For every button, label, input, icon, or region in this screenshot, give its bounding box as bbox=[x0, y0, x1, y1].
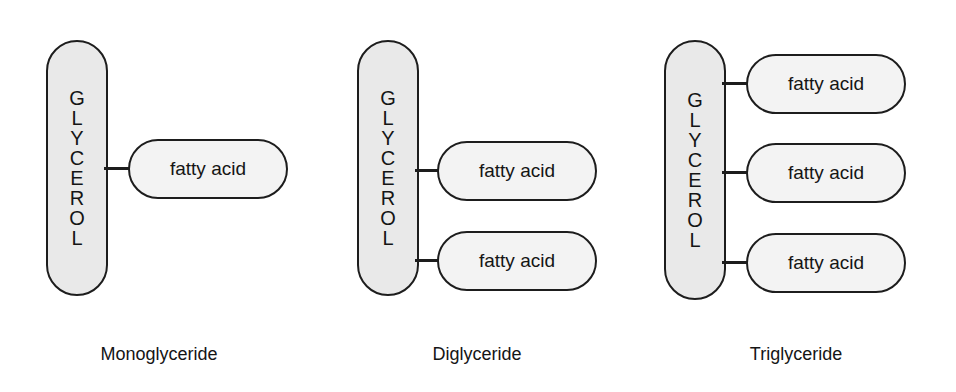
caption-text: Monoglyceride bbox=[100, 344, 217, 364]
glycerol-letter: G bbox=[69, 88, 85, 108]
glycerol-letter: L bbox=[382, 228, 393, 248]
fatty-acid-capsule: fatty acid bbox=[746, 54, 906, 114]
panel-diglyceride: G L Y C E R O L fatty acid fatty acid Di… bbox=[318, 0, 636, 392]
glycerol-letter: L bbox=[689, 230, 700, 250]
fatty-acid-label: fatty acid bbox=[788, 252, 864, 274]
caption-text: Triglyceride bbox=[750, 344, 842, 364]
glycerol-letter: O bbox=[687, 210, 703, 230]
fatty-acid-capsule: fatty acid bbox=[437, 231, 597, 291]
glycerol-letter: O bbox=[69, 208, 85, 228]
glycerol-letter: G bbox=[687, 90, 703, 110]
fatty-acid-capsule: fatty acid bbox=[746, 233, 906, 293]
fatty-acid-label: fatty acid bbox=[788, 73, 864, 95]
glycerol-letter: R bbox=[688, 190, 702, 210]
caption-text: Diglyceride bbox=[432, 344, 521, 364]
fatty-acid-label: fatty acid bbox=[170, 158, 246, 180]
glyceride-diagram: G L Y C E R O L fatty acid Monoglyceride… bbox=[0, 0, 956, 392]
glycerol-backbone: G L Y C E R O L bbox=[664, 40, 726, 300]
glycerol-backbone: G L Y C E R O L bbox=[357, 40, 419, 296]
glycerol-backbone: G L Y C E R O L bbox=[46, 40, 108, 296]
glycerol-label: G L Y C E R O L bbox=[69, 88, 85, 248]
panel-triglyceride: G L Y C E R O L fatty acid fatty acid fa… bbox=[636, 0, 956, 392]
fatty-acid-capsule: fatty acid bbox=[128, 139, 288, 199]
glycerol-letter: L bbox=[382, 108, 393, 128]
fatty-acid-capsule: fatty acid bbox=[746, 143, 906, 203]
glycerol-letter: Y bbox=[70, 128, 83, 148]
glycerol-letter: G bbox=[380, 88, 396, 108]
glycerol-label: G L Y C E R O L bbox=[687, 90, 703, 250]
glycerol-letter: L bbox=[689, 110, 700, 130]
glycerol-letter: C bbox=[381, 148, 395, 168]
panel-monoglyceride: G L Y C E R O L fatty acid Monoglyceride bbox=[0, 0, 318, 392]
glycerol-letter: R bbox=[70, 188, 84, 208]
fatty-acid-label: fatty acid bbox=[788, 162, 864, 184]
glycerol-letter: C bbox=[70, 148, 84, 168]
glycerol-letter: L bbox=[71, 228, 82, 248]
glycerol-letter: R bbox=[381, 188, 395, 208]
glycerol-label: G L Y C E R O L bbox=[380, 88, 396, 248]
glycerol-letter: E bbox=[70, 168, 83, 188]
panel-caption: Triglyceride bbox=[636, 344, 956, 365]
fatty-acid-label: fatty acid bbox=[479, 160, 555, 182]
glycerol-letter: Y bbox=[688, 130, 701, 150]
glycerol-letter: L bbox=[71, 108, 82, 128]
glycerol-letter: E bbox=[381, 168, 394, 188]
glycerol-letter: Y bbox=[381, 128, 394, 148]
fatty-acid-label: fatty acid bbox=[479, 250, 555, 272]
panel-caption: Diglyceride bbox=[318, 344, 636, 365]
panel-caption: Monoglyceride bbox=[0, 344, 318, 365]
fatty-acid-capsule: fatty acid bbox=[437, 141, 597, 201]
glycerol-letter: E bbox=[688, 170, 701, 190]
glycerol-letter: O bbox=[380, 208, 396, 228]
glycerol-letter: C bbox=[688, 150, 702, 170]
